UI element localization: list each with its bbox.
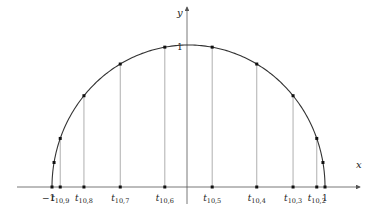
node-label: t10,4 [248, 193, 266, 205]
curve-point [255, 63, 258, 66]
endpoint [51, 186, 54, 189]
curve-point [163, 46, 166, 49]
node-label: t10,7 [111, 193, 129, 205]
curve-point [292, 94, 295, 97]
node-label: t10,3 [284, 193, 302, 205]
x-axis-label: x [356, 159, 362, 170]
axis-point [292, 186, 295, 189]
node-points [51, 46, 327, 189]
semicircle-curve [52, 45, 325, 187]
endpoint [324, 186, 327, 189]
projection-lines [60, 47, 317, 187]
node-label: t10,5 [203, 193, 221, 205]
axis-point [315, 186, 318, 189]
axis-point [163, 186, 166, 189]
y-axis-label: y [176, 7, 183, 18]
axis-point [211, 186, 214, 189]
curve-point [59, 137, 62, 140]
node-label: t10,8 [75, 193, 93, 205]
axis-point [255, 186, 258, 189]
curve-point [211, 46, 214, 49]
node-labels: t10,9t10,8t10,7t10,6t10,5t10,4t10,3t10,2 [51, 193, 326, 205]
curve-point [82, 94, 85, 97]
semicircle-diagram: t10,9t10,8t10,7t10,6t10,5t10,4t10,3t10,2… [0, 0, 375, 209]
x-tick-pos-label: 1 [322, 193, 328, 203]
curve-point [53, 161, 56, 164]
axis-point [82, 186, 85, 189]
axis-point [119, 186, 122, 189]
curve-point [321, 161, 324, 164]
curve-point [119, 63, 122, 66]
node-label: t10,6 [156, 193, 174, 205]
x-tick-neg-label: −1 [42, 193, 55, 203]
curve-point [315, 137, 318, 140]
axis-point [59, 186, 62, 189]
y-tick-label: 1 [177, 42, 183, 52]
